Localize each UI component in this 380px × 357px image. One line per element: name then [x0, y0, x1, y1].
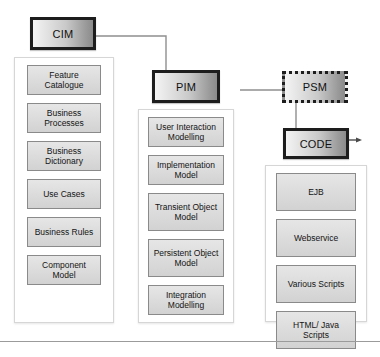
stage-box-cim[interactable]: CIM: [30, 17, 96, 50]
artefact-item[interactable]: Business Processes: [27, 103, 101, 133]
caption-divider: [0, 341, 380, 342]
panel-pim-artefacts: User Interaction Modelling Implementatio…: [138, 109, 234, 323]
artefact-item[interactable]: Implementation Model: [148, 155, 224, 185]
artefact-label: Business Dictionary: [30, 146, 98, 167]
artefact-item[interactable]: Persistent Object Model: [148, 239, 224, 277]
stage-box-pim[interactable]: PIM: [152, 70, 220, 103]
artefact-label: Implementation Model: [151, 160, 221, 181]
stage-label-psm: PSM: [303, 81, 327, 93]
artefact-item[interactable]: HTML/ Java Scripts: [276, 311, 356, 349]
artefact-label: Webservice: [294, 233, 338, 244]
artefact-item[interactable]: Component Model: [27, 255, 101, 285]
stage-box-code[interactable]: CODE: [283, 128, 349, 159]
artefact-item[interactable]: Transient Object Model: [148, 193, 224, 231]
artefact-item[interactable]: Business Dictionary: [27, 141, 101, 171]
artefact-label: Business Rules: [35, 227, 94, 238]
stage-label-cim: CIM: [53, 28, 74, 40]
artefact-label: HTML/ Java Scripts: [279, 320, 353, 341]
artefact-item[interactable]: Integration Modelling: [148, 285, 224, 315]
artefact-item[interactable]: Various Scripts: [276, 265, 356, 303]
mda-diagram: CIM PIM PSM CODE Feature Catalogue Busin…: [0, 0, 380, 357]
artefact-item[interactable]: User Interaction Modelling: [148, 117, 224, 147]
artefact-item[interactable]: Webservice: [276, 219, 356, 257]
panel-cim-artefacts: Feature Catalogue Business Processes Bus…: [14, 57, 114, 323]
stage-label-pim: PIM: [176, 81, 196, 93]
stage-box-psm[interactable]: PSM: [282, 71, 348, 103]
artefact-label: Component Model: [30, 260, 98, 281]
artefact-label: Business Processes: [30, 108, 98, 129]
panel-code-artefacts: EJB Webservice Various Scripts HTML/ Jav…: [265, 165, 367, 322]
artefact-label: User Interaction Modelling: [151, 122, 221, 143]
artefact-label: EJB: [308, 187, 324, 198]
artefact-item[interactable]: Use Cases: [27, 179, 101, 209]
artefact-label: Integration Modelling: [151, 290, 221, 311]
stage-label-code: CODE: [300, 138, 333, 150]
artefact-label: Persistent Object Model: [151, 248, 221, 269]
artefact-label: Feature Catalogue: [30, 70, 98, 91]
artefact-item[interactable]: Business Rules: [27, 217, 101, 247]
artefact-item[interactable]: Feature Catalogue: [27, 65, 101, 95]
artefact-item[interactable]: EJB: [276, 173, 356, 211]
artefact-label: Use Cases: [43, 189, 85, 200]
artefact-label: Various Scripts: [288, 279, 345, 290]
artefact-label: Transient Object Model: [151, 202, 221, 223]
